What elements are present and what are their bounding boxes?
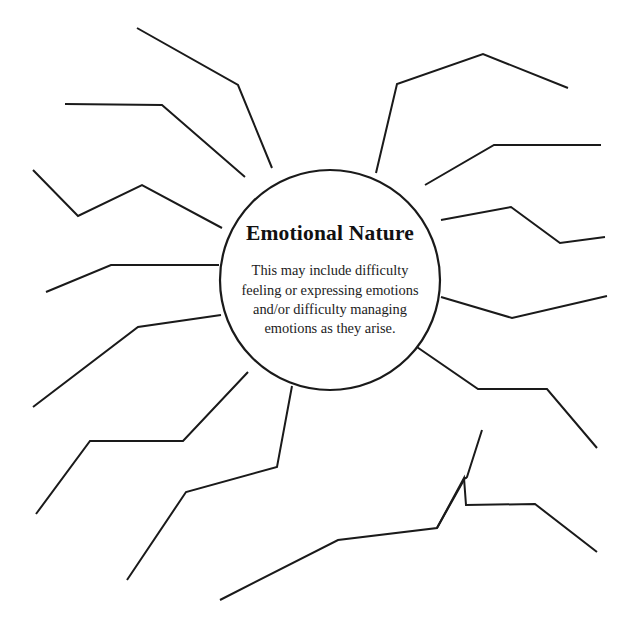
mind-map-diagram [0,0,637,644]
spoke-s[interactable] [220,430,482,600]
spoke-nw-upper[interactable] [65,104,245,177]
spoke-se-mid[interactable] [414,345,597,448]
spoke-nw-zigzag[interactable] [33,170,222,228]
spoke-n-nw[interactable] [137,28,272,168]
spoke-e-upper[interactable] [441,207,605,243]
spoke-sw-middle[interactable] [36,372,248,514]
spoke-se-lower[interactable] [437,478,597,552]
spoke-e-lower[interactable] [441,296,607,318]
spoke-ne-upper[interactable] [376,54,568,173]
spoke-w[interactable] [46,265,219,292]
spoke-ne-lower[interactable] [425,145,601,185]
spoke-sw-upper[interactable] [33,315,221,407]
center-circle-outline [220,170,440,390]
worksheet-canvas: Emotional Nature This may include diffic… [0,0,637,644]
spoke-sw-lower[interactable] [127,386,292,580]
